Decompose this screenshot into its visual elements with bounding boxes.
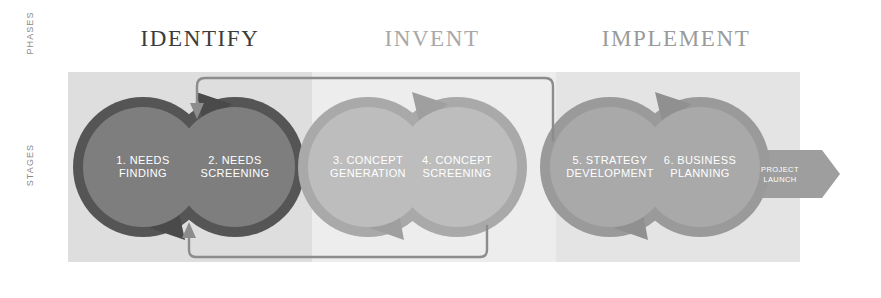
stage-circle-6[interactable] [640, 107, 760, 227]
stage-circle-2[interactable] [175, 107, 295, 227]
diagram-svg [0, 0, 881, 298]
process-diagram: PHASES STAGES IDENTIFY INVENT IMPLEMENT [0, 0, 881, 298]
stage-circle-4[interactable] [397, 107, 517, 227]
